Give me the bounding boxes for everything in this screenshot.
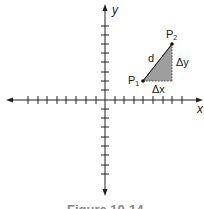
x-axis-label: x bbox=[196, 102, 204, 116]
point-p1-label: P1 bbox=[128, 74, 139, 87]
point-p2-marker bbox=[170, 42, 174, 46]
distance-diagram: y x P1 P2 d Δy Δx Figure 10-14 bbox=[0, 0, 204, 209]
y-axis-down-arrow-icon bbox=[103, 189, 108, 196]
delta-y-label: Δy bbox=[176, 56, 189, 68]
distance-label: d bbox=[148, 52, 154, 64]
delta-x-label: Δx bbox=[152, 83, 165, 95]
x-axis-left-arrow-icon bbox=[6, 98, 13, 103]
right-triangle bbox=[141, 42, 174, 83]
point-p1-marker bbox=[141, 79, 145, 83]
point-p2-label: P2 bbox=[166, 28, 177, 41]
figure-caption: Figure 10-14 bbox=[67, 202, 144, 209]
y-axis-label: y bbox=[111, 3, 119, 17]
y-axis-up-arrow-icon bbox=[103, 4, 108, 11]
